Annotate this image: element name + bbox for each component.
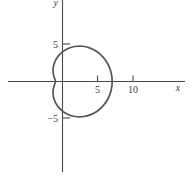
y-axis-label: y [53, 0, 59, 8]
y-tick-label-5: 5 [53, 39, 58, 50]
x-tick-label-5: 5 [95, 84, 100, 95]
polar-curve-figure: 5 10 5 −5 x y [0, 0, 195, 177]
y-tick-label-minus-5: −5 [47, 113, 58, 124]
x-axis-label: x [175, 82, 181, 93]
plot-canvas: 5 10 5 −5 x y [0, 0, 195, 177]
x-tick-label-10: 10 [128, 84, 138, 95]
